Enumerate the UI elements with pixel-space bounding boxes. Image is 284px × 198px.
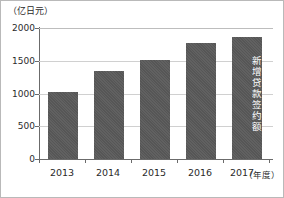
gridline-2000 (39, 28, 273, 29)
y-tick-1000 (35, 94, 39, 95)
y-axis-label-500: 500 (5, 122, 35, 131)
chart-figure: （亿日元） 新增贷款签约额 2000 1500 1000 500 0 (0, 0, 284, 198)
plot-area: 新增贷款签约额 (39, 28, 273, 159)
y-axis-unit-caption: （亿日元） (8, 4, 53, 17)
x-tick-1 (85, 159, 86, 163)
bar-2013[interactable] (48, 92, 78, 160)
x-tick-start (39, 159, 40, 163)
x-tick-3 (177, 159, 178, 163)
y-axis-label-0: 0 (5, 155, 35, 164)
x-tick-end (269, 159, 270, 163)
bar-2014[interactable] (94, 71, 124, 159)
x-tick-2 (131, 159, 132, 163)
x-tick-4 (223, 159, 224, 163)
y-tick-500 (35, 126, 39, 127)
x-axis-label-2014: 2014 (85, 167, 131, 178)
y-axis-label-1500: 1500 (5, 57, 35, 66)
y-axis-label-1000: 1000 (5, 90, 35, 99)
x-axis-label-2016: 2016 (177, 167, 223, 178)
x-axis-unit-label: （年度） (244, 168, 280, 180)
x-axis-label-2013: 2013 (39, 167, 85, 178)
bar-2017[interactable]: 新增贷款签约额 (232, 37, 262, 160)
bar-2016[interactable] (186, 43, 216, 159)
y-tick-1500 (35, 61, 39, 62)
bar-2015[interactable] (140, 60, 170, 159)
y-axis-labels: 2000 1500 1000 500 0 (1, 28, 35, 159)
x-axis-label-2015: 2015 (131, 167, 177, 178)
bar-series-label: 新增贷款签约额 (232, 43, 262, 147)
y-tick-2000 (35, 28, 39, 29)
y-axis-label-2000: 2000 (5, 24, 35, 33)
x-axis-line (39, 159, 273, 160)
